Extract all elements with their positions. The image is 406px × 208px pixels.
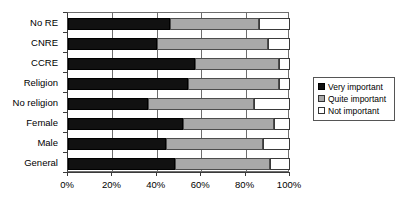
segment-not-important [279, 58, 290, 70]
segment-not-important [259, 18, 290, 30]
y-axis-label-religion: Religion [0, 77, 58, 89]
y-tick [63, 32, 67, 33]
black-square-icon [318, 83, 325, 90]
y-axis-label-no-religion: No religion [0, 97, 58, 109]
bar-row [68, 158, 288, 170]
segment-quite-important [188, 78, 279, 90]
x-tick [245, 172, 246, 176]
legend-label: Very important [328, 82, 383, 92]
segment-quite-important [183, 118, 274, 130]
y-tick [63, 92, 67, 93]
chart-legend: Very important Quite important Not impor… [313, 77, 395, 121]
x-tick-label: 40% [146, 179, 165, 190]
x-tick-label: 80% [235, 179, 254, 190]
segment-very-important [68, 138, 166, 150]
segment-very-important [68, 18, 170, 30]
bar-row [68, 118, 288, 130]
segment-very-important [68, 78, 188, 90]
stacked-bar-chart: No RECNRECCREReligionNo religionFemaleMa… [0, 0, 406, 208]
segment-not-important [254, 98, 290, 110]
segment-quite-important [170, 18, 259, 30]
x-tick [156, 172, 157, 176]
y-axis-label-general: General [0, 157, 58, 169]
y-axis-label-no-re: No RE [0, 17, 58, 29]
gray-square-icon [318, 95, 325, 102]
y-tick [63, 12, 67, 13]
bar-row [68, 138, 288, 150]
y-tick [63, 72, 67, 73]
x-tick-label: 20% [102, 179, 121, 190]
y-axis-label-female: Female [0, 117, 58, 129]
y-tick [63, 52, 67, 53]
legend-label: Quite important [328, 94, 386, 104]
y-tick [63, 152, 67, 153]
segment-not-important [268, 38, 290, 50]
y-tick [63, 132, 67, 133]
y-axis-label-male: Male [0, 137, 58, 149]
segment-quite-important [148, 98, 255, 110]
x-tick [289, 172, 290, 176]
x-axis-line [67, 172, 289, 173]
legend-item-very-important: Very important [318, 81, 390, 92]
y-tick [63, 172, 67, 173]
y-axis-label-ccre: CCRE [0, 57, 58, 69]
segment-quite-important [157, 38, 268, 50]
plot-area [67, 12, 289, 172]
y-axis-category-labels: No RECNRECCREReligionNo religionFemaleMa… [0, 12, 62, 172]
x-tick [67, 172, 68, 176]
x-tick-label: 0% [60, 179, 74, 190]
segment-not-important [263, 138, 290, 150]
segment-very-important [68, 158, 175, 170]
x-tick [200, 172, 201, 176]
segment-very-important [68, 118, 183, 130]
bar-row [68, 58, 288, 70]
segment-very-important [68, 58, 195, 70]
bar-row [68, 98, 288, 110]
segment-very-important [68, 38, 157, 50]
segment-not-important [279, 78, 290, 90]
bar-row [68, 18, 288, 30]
segment-quite-important [175, 158, 270, 170]
x-tick-label: 100% [277, 179, 301, 190]
segment-quite-important [195, 58, 279, 70]
segment-very-important [68, 98, 148, 110]
x-tick [111, 172, 112, 176]
segment-not-important [274, 118, 290, 130]
x-tick-label: 60% [191, 179, 210, 190]
segment-not-important [270, 158, 290, 170]
y-tick [63, 112, 67, 113]
white-square-icon [318, 107, 325, 114]
bar-row [68, 78, 288, 90]
y-axis-label-cnre: CNRE [0, 37, 58, 49]
legend-label: Not important [328, 106, 379, 116]
legend-item-not-important: Not important [318, 105, 390, 116]
segment-quite-important [166, 138, 264, 150]
legend-item-quite-important: Quite important [318, 93, 390, 104]
bar-row [68, 38, 288, 50]
